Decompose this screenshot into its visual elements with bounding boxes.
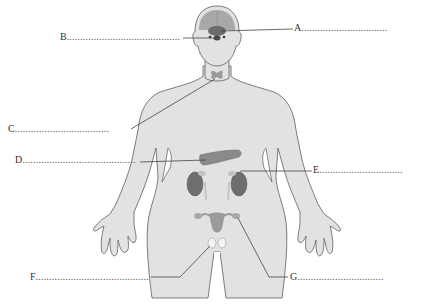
answer-blank-d[interactable]: ........................................… bbox=[22, 155, 135, 165]
label-f: F.......................................… bbox=[30, 272, 149, 282]
label-letter-g: G bbox=[290, 272, 297, 282]
label-b: B.......................................… bbox=[60, 32, 180, 42]
label-letter-b: B bbox=[60, 32, 67, 42]
label-letter-d: D bbox=[15, 155, 22, 165]
answer-blank-g[interactable]: ................................ bbox=[297, 272, 383, 282]
label-e: E............................... bbox=[313, 165, 403, 175]
label-c: C................................... bbox=[8, 124, 109, 134]
label-d: D.......................................… bbox=[15, 155, 136, 165]
endocrine-body-figure bbox=[0, 0, 430, 304]
label-letter-a: A bbox=[294, 23, 301, 33]
label-a: A................................ bbox=[294, 23, 388, 33]
answer-blank-c[interactable]: ................................... bbox=[15, 124, 110, 134]
answer-blank-b[interactable]: ........................................… bbox=[67, 32, 180, 42]
answer-blank-a[interactable]: ................................ bbox=[301, 23, 387, 33]
answer-blank-e[interactable]: ............................... bbox=[319, 165, 403, 175]
label-letter-c: C bbox=[8, 124, 15, 134]
answer-blank-f[interactable]: ........................................… bbox=[36, 272, 149, 282]
label-g: G................................ bbox=[290, 272, 384, 282]
